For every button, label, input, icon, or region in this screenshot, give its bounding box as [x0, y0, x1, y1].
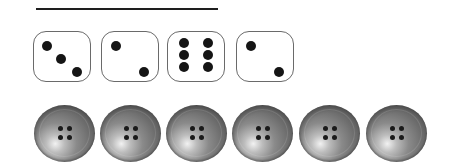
sewing-button-icon [34, 105, 95, 162]
die-2-icon [236, 31, 294, 82]
button-hole [399, 126, 404, 131]
sewing-button-icon [166, 105, 227, 162]
pip-dot [179, 62, 189, 72]
button-hole [390, 126, 395, 131]
button-hole [332, 126, 337, 131]
die-6-icon [167, 31, 225, 82]
button-hole [323, 135, 328, 140]
pip-dot [111, 41, 121, 51]
button-hole [256, 135, 261, 140]
pip-dot [72, 67, 82, 77]
pip-dot [139, 67, 149, 77]
button-hole [399, 135, 404, 140]
button-hole [133, 126, 138, 131]
die-3-icon [33, 31, 91, 82]
button-hole [124, 135, 129, 140]
button-hole [390, 135, 395, 140]
button-hole [332, 135, 337, 140]
button-hole [190, 126, 195, 131]
button-hole [58, 135, 63, 140]
button-hole [199, 126, 204, 131]
button-hole [265, 135, 270, 140]
sewing-button-icon [366, 105, 427, 162]
sewing-button-icon [100, 105, 161, 162]
button-hole [190, 135, 195, 140]
button-hole [256, 126, 261, 131]
pip-dot [179, 38, 189, 48]
sewing-button-icon [299, 105, 360, 162]
sewing-button-icon [232, 105, 293, 162]
button-hole [265, 126, 270, 131]
button-hole [67, 126, 72, 131]
button-hole [133, 135, 138, 140]
button-hole [124, 126, 129, 131]
button-hole [58, 126, 63, 131]
button-hole [199, 135, 204, 140]
pip-dot [203, 50, 213, 60]
pip-dot [203, 62, 213, 72]
pip-dot [56, 54, 66, 64]
button-hole [67, 135, 72, 140]
answer-line [36, 8, 218, 10]
pip-dot [42, 41, 52, 51]
button-hole [323, 126, 328, 131]
pip-dot [274, 67, 284, 77]
pip-dot [203, 38, 213, 48]
pip-dot [246, 41, 256, 51]
pip-dot [179, 50, 189, 60]
die-2-icon [101, 31, 159, 82]
